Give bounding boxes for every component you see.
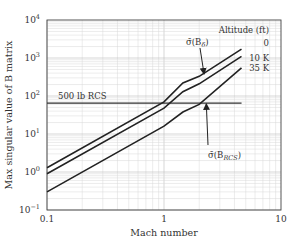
- annotation-arrow: [200, 48, 204, 74]
- annotation-label: σ̄(BRCS): [208, 150, 241, 162]
- y-tick-label: 101: [24, 127, 40, 139]
- x-tick-label: 1: [161, 214, 167, 224]
- x-tick-labels: 0.1110: [40, 214, 287, 224]
- x-tick-label: 10: [275, 214, 287, 224]
- x-tick-label: 0.1: [40, 214, 54, 224]
- legend-label: 0: [264, 38, 269, 48]
- y-tick-label: 103: [24, 51, 40, 63]
- reference-line-label: 500 lb RCS: [58, 91, 107, 101]
- y-tick-label: 104: [24, 13, 40, 25]
- x-axis-label: Mach number: [130, 227, 198, 238]
- y-axis-label-part: Max singular value of B matrix: [3, 40, 14, 189]
- annotation-arrow: [206, 104, 208, 145]
- legend-label: 35 K: [249, 63, 270, 73]
- y-tick-label: 10−1: [19, 203, 40, 215]
- y-tick-label: 102: [24, 89, 40, 101]
- grid: [47, 20, 281, 210]
- chart: 500 lb RCS 0.1110 10−1100101102103104 Ma…: [0, 0, 299, 244]
- annotation-label: σ̄(Bδ): [186, 37, 209, 49]
- legend: 010 K35 K: [249, 38, 270, 73]
- series-line-35k: [47, 68, 242, 192]
- series-curves: [47, 49, 242, 192]
- y-axis-label: Max singular value of B matrix: [3, 40, 14, 189]
- y-tick-label: 100: [24, 165, 40, 177]
- y-tick-labels: 10−1100101102103104: [19, 13, 40, 215]
- legend-title: Altitude (ft): [218, 25, 269, 35]
